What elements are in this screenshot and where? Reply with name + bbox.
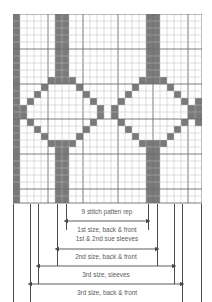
filled-stitch-cell [13, 189, 20, 196]
size-range-label: 9 stitch patten rep [82, 208, 133, 216]
filled-stitch-cell [13, 98, 20, 105]
filled-stitch-cell [160, 140, 167, 147]
filled-stitch-cell [55, 189, 62, 196]
filled-stitch-cell [97, 105, 104, 112]
filled-stitch-cell [55, 42, 62, 49]
filled-stitch-cell [13, 147, 20, 154]
filled-stitch-cell [13, 119, 20, 126]
filled-stitch-cell [55, 147, 62, 154]
filled-stitch-cell [146, 21, 153, 28]
filled-stitch-cell [146, 28, 153, 35]
filled-stitch-cell [55, 14, 62, 21]
filled-stitch-cell [62, 77, 69, 84]
filled-stitch-cell [55, 21, 62, 28]
filled-stitch-cell [13, 35, 20, 42]
filled-stitch-cell [160, 77, 167, 84]
filled-stitch-cell [55, 77, 62, 84]
filled-stitch-cell [195, 112, 202, 119]
filled-stitch-cell [13, 126, 20, 133]
filled-stitch-cell [76, 133, 83, 140]
filled-stitch-cell [181, 119, 188, 126]
filled-stitch-cell [167, 84, 174, 91]
filled-stitch-cell [13, 154, 20, 161]
filled-stitch-cell [153, 168, 160, 175]
filled-stitch-cell [146, 63, 153, 70]
filled-stitch-cell [27, 98, 34, 105]
filled-stitch-cell [146, 35, 153, 42]
filled-stitch-cell [153, 21, 160, 28]
filled-stitch-cell [55, 175, 62, 182]
filled-stitch-cell [62, 168, 69, 175]
filled-stitch-cell [153, 196, 160, 203]
filled-stitch-cell [62, 175, 69, 182]
filled-stitch-cell [62, 147, 69, 154]
filled-stitch-cell [153, 182, 160, 189]
filled-stitch-cell [13, 112, 20, 119]
filled-stitch-cell [13, 49, 20, 56]
filled-stitch-cell [48, 77, 55, 84]
filled-stitch-cell [62, 42, 69, 49]
filled-stitch-cell [20, 105, 27, 112]
filled-stitch-cell [13, 14, 20, 21]
filled-stitch-cell [153, 189, 160, 196]
filled-stitch-cell [153, 140, 160, 147]
filled-stitch-cell [153, 63, 160, 70]
filled-stitch-cell [62, 154, 69, 161]
filled-stitch-cell [195, 119, 202, 126]
filled-stitch-cell [153, 175, 160, 182]
filled-stitch-cell [13, 91, 20, 98]
filled-stitch-cell [62, 161, 69, 168]
filled-stitch-cell [146, 161, 153, 168]
filled-stitch-cell [13, 196, 20, 203]
filled-stitch-cell [153, 70, 160, 77]
filled-stitch-cell [62, 21, 69, 28]
filled-stitch-cell [13, 70, 20, 77]
filled-stitch-cell [153, 56, 160, 63]
filled-stitch-cell [153, 161, 160, 168]
filled-stitch-cell [153, 49, 160, 56]
filled-stitch-cell [146, 196, 153, 203]
filled-stitch-cell [55, 154, 62, 161]
filled-stitch-cell [62, 182, 69, 189]
filled-stitch-cell [132, 84, 139, 91]
filled-stitch-cell [41, 133, 48, 140]
filled-stitch-cell [146, 49, 153, 56]
filled-stitch-cell [125, 126, 132, 133]
filled-stitch-cell [132, 133, 139, 140]
filled-stitch-cell [146, 175, 153, 182]
grid-background [13, 14, 202, 204]
filled-stitch-cell [41, 84, 48, 91]
filled-stitch-cell [62, 28, 69, 35]
filled-stitch-cell [48, 140, 55, 147]
size-bracket-svg: 9 stitch patten rep1st size, back & fron… [0, 204, 212, 302]
filled-stitch-cell [13, 42, 20, 49]
filled-stitch-cell [13, 63, 20, 70]
filled-stitch-cell [13, 21, 20, 28]
filled-stitch-cell [55, 28, 62, 35]
filled-stitch-cell [55, 168, 62, 175]
filled-stitch-cell [153, 35, 160, 42]
filled-stitch-cell [153, 28, 160, 35]
filled-stitch-cell [55, 56, 62, 63]
filled-stitch-cell [13, 161, 20, 168]
filled-stitch-cell [146, 168, 153, 175]
filled-stitch-cell [27, 119, 34, 126]
filled-stitch-cell [13, 175, 20, 182]
filled-stitch-cell [146, 77, 153, 84]
filled-stitch-cell [188, 105, 195, 112]
filled-stitch-cell [55, 63, 62, 70]
filled-stitch-cell [139, 77, 146, 84]
filled-stitch-cell [55, 196, 62, 203]
filled-stitch-cell [62, 196, 69, 203]
filled-stitch-cell [34, 91, 41, 98]
filled-stitch-cell [125, 91, 132, 98]
filled-stitch-cell [55, 70, 62, 77]
filled-stitch-cell [20, 112, 27, 119]
size-range-label: 2nd size, back & front [75, 253, 137, 260]
filled-stitch-cell [146, 70, 153, 77]
filled-stitch-cell [153, 147, 160, 154]
size-range-label: 3rd size, back & front [77, 289, 137, 296]
filled-stitch-cell [174, 91, 181, 98]
filled-stitch-cell [111, 112, 118, 119]
filled-stitch-cell [146, 147, 153, 154]
